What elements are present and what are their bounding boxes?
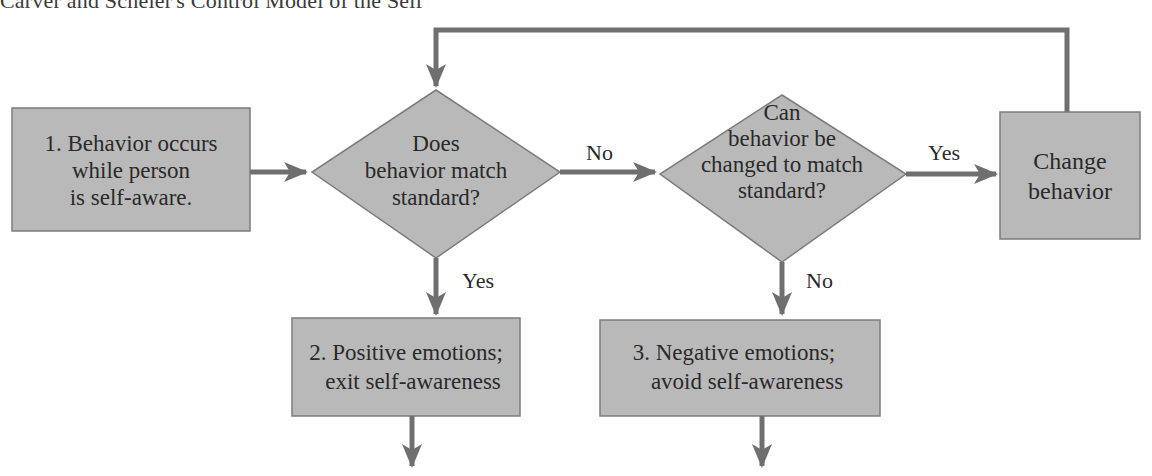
decision1-line-3: standard? bbox=[330, 184, 542, 211]
change-label: Change behavior bbox=[1000, 146, 1140, 206]
decision2-line-2: behavior be bbox=[676, 126, 888, 152]
positive-label: 2. Positive emotions; exit self-awarenes… bbox=[292, 338, 520, 396]
start-line-1: 1. Behavior occurs bbox=[12, 130, 250, 157]
edge-label-decision2-no: No bbox=[806, 268, 833, 294]
change-line-1: Change bbox=[1000, 146, 1140, 176]
decision2-line-1: Can bbox=[676, 100, 888, 126]
start-line-3: is self-aware. bbox=[12, 184, 250, 211]
decision1-line-2: behavior match bbox=[330, 157, 542, 184]
negative-label: 3. Negative emotions; avoid self-awarene… bbox=[600, 338, 880, 396]
negative-line-2: avoid self-awareness bbox=[600, 367, 880, 396]
decision2-line-4: standard? bbox=[676, 178, 888, 204]
start-label: 1. Behavior occurs while person is self-… bbox=[12, 130, 250, 211]
flowchart bbox=[0, 0, 1152, 476]
negative-line-1: 3. Negative emotions; bbox=[600, 338, 880, 367]
decision2-line-3: changed to match bbox=[676, 152, 888, 178]
positive-line-2: exit self-awareness bbox=[292, 367, 520, 396]
edge-label-decision2-yes: Yes bbox=[928, 140, 960, 166]
decision2-label: Can behavior be changed to match standar… bbox=[676, 100, 888, 204]
start-line-2: while person bbox=[12, 157, 250, 184]
decision1-label: Does behavior match standard? bbox=[330, 130, 542, 211]
decision1-line-1: Does bbox=[330, 130, 542, 157]
change-line-2: behavior bbox=[1000, 176, 1140, 206]
edge-label-decision1-no: No bbox=[586, 140, 613, 166]
positive-line-1: 2. Positive emotions; bbox=[292, 338, 520, 367]
edge-label-decision1-yes: Yes bbox=[462, 268, 494, 294]
